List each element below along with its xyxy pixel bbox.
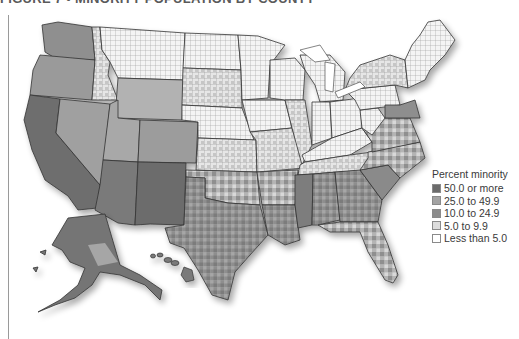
- legend-label: 25.0 to 49.9: [444, 195, 499, 207]
- legend-swatch-under-5: [432, 234, 441, 243]
- state-new-england: [405, 20, 455, 88]
- state-montana: [100, 27, 185, 80]
- state-wyoming: [115, 78, 183, 120]
- state-arkansas: [257, 170, 298, 205]
- legend-item: 5.0 to 9.9: [432, 220, 508, 233]
- legend-item: 25.0 to 49.9: [432, 195, 508, 208]
- legend-item: 10.0 to 24.9: [432, 207, 508, 220]
- state-south-dakota: [182, 68, 242, 108]
- state-louisiana: [262, 205, 300, 245]
- legend-item: Less than 5.0: [432, 232, 508, 245]
- legend-swatch-10-24: [432, 209, 441, 218]
- state-kansas: [196, 138, 257, 172]
- hawaii-inset: [151, 253, 195, 282]
- state-oregon: [30, 55, 95, 100]
- legend-swatch-5-9: [432, 221, 441, 230]
- legend-swatch-25-49: [432, 196, 441, 205]
- legend-label: 5.0 to 9.9: [444, 220, 488, 232]
- state-mississippi: [295, 174, 313, 228]
- alaska-inset: [33, 214, 162, 312]
- legend-label: 50.0 or more: [444, 182, 504, 194]
- state-florida: [318, 222, 398, 283]
- state-wisconsin: [270, 58, 305, 100]
- legend-title: Percent minority: [432, 168, 508, 180]
- legend-item: 50.0 or more: [432, 182, 508, 195]
- map-legend: Percent minority 50.0 or more 25.0 to 49…: [432, 168, 508, 245]
- legend-label: 10.0 to 24.9: [444, 207, 499, 219]
- state-colorado: [138, 120, 198, 163]
- state-north-dakota: [183, 33, 241, 70]
- state-indiana: [312, 102, 332, 145]
- state-iowa: [242, 100, 292, 132]
- state-washington: [42, 22, 95, 60]
- state-new-mexico: [135, 162, 186, 225]
- legend-label: Less than 5.0: [444, 232, 507, 244]
- legend-swatch-50-plus: [432, 184, 441, 193]
